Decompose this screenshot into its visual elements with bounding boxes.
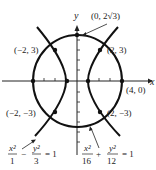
ellipse-equation: x² 16 + y² 12 = 1 bbox=[82, 143, 134, 166]
label-right-vertex: (4, 0) bbox=[126, 85, 146, 95]
point-upper-right bbox=[98, 48, 102, 52]
svg-text:y²: y² bbox=[32, 143, 40, 153]
label-lower-right: (2, −3) bbox=[107, 108, 132, 118]
point-right-vertex-ellipse bbox=[120, 79, 124, 83]
label-lower-left: (−2, −3) bbox=[6, 108, 36, 118]
svg-text:+: + bbox=[96, 149, 101, 159]
arrowhead-icon bbox=[81, 32, 86, 36]
svg-text:12: 12 bbox=[107, 156, 116, 166]
y-axis-arrow-icon bbox=[75, 25, 80, 31]
conic-diagram: x y (0, 2√3) (−2, 3) (2, 3) (−2, −3) (2,… bbox=[0, 0, 156, 170]
label-top-point: (0, 2√3) bbox=[91, 11, 120, 21]
pointer-top bbox=[83, 24, 107, 35]
pointer-ellipse bbox=[91, 128, 99, 148]
svg-text:= 1: = 1 bbox=[122, 149, 134, 159]
svg-text:y²: y² bbox=[108, 143, 116, 153]
point-left-vertex-ellipse bbox=[31, 79, 35, 83]
point-right-vertex-hyperbola bbox=[86, 79, 90, 83]
x-axis-label: x bbox=[149, 76, 155, 87]
label-upper-left: (−2, 3) bbox=[14, 45, 39, 55]
svg-text:−: − bbox=[21, 149, 26, 159]
point-lower-right bbox=[98, 110, 102, 114]
point-upper-left bbox=[53, 48, 57, 52]
hyperbola-equation: x² 1 − y² 3 = 1 bbox=[8, 143, 57, 166]
svg-text:x²: x² bbox=[83, 143, 91, 153]
y-axis-label: y bbox=[73, 10, 79, 21]
point-lower-left bbox=[53, 110, 57, 114]
svg-text:x²: x² bbox=[8, 143, 16, 153]
point-top bbox=[75, 33, 79, 37]
svg-text:= 1: = 1 bbox=[45, 149, 57, 159]
svg-text:3: 3 bbox=[34, 156, 39, 166]
label-upper-right: (2, 3) bbox=[107, 45, 127, 55]
svg-text:1: 1 bbox=[10, 156, 15, 166]
svg-text:16: 16 bbox=[82, 156, 92, 166]
point-left-vertex-hyperbola bbox=[65, 79, 69, 83]
